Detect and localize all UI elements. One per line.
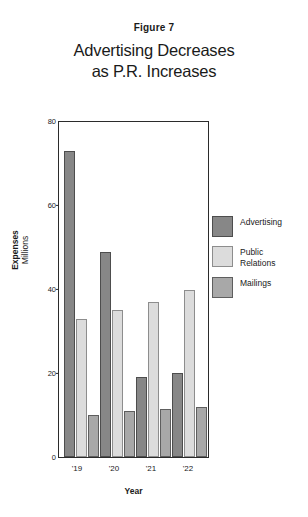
bar-advertising-20 <box>100 252 111 457</box>
chart-title-line-2: as P.R. Increases <box>0 61 308 82</box>
chart-title-line-1: Advertising Decreases <box>74 41 235 59</box>
bar-public-relations-19 <box>76 319 87 457</box>
chart-legend: AdvertisingPublicRelationsMailings <box>212 216 306 307</box>
legend-label-line-1: Advertising <box>240 217 282 228</box>
bar-mailings-20 <box>124 411 135 457</box>
bar-mailings-21 <box>160 409 171 457</box>
bar-public-relations-22 <box>184 290 195 458</box>
x-tick-19: '19 <box>57 464 97 473</box>
bar-public-relations-20 <box>112 310 123 457</box>
figure-number: Figure 7 <box>0 22 308 33</box>
y-tick-80: 80 <box>0 117 56 126</box>
x-tick-21: '21 <box>131 464 171 473</box>
bar-group-21 <box>136 122 172 457</box>
legend-swatch-public <box>212 246 233 267</box>
y-axis-label: Expenses Millions <box>10 205 30 295</box>
legend-swatch-mailings <box>212 277 233 298</box>
y-tick-80-text: 80 <box>48 117 56 126</box>
y-tick-60-text: 60 <box>48 201 56 210</box>
legend-label-line-1: Mailings <box>240 278 271 289</box>
x-axis-label: Year <box>58 486 209 496</box>
x-tick-22: '22 <box>168 464 208 473</box>
y-tick-0: 0 <box>0 453 56 462</box>
y-tick-40-text: 40 <box>48 285 56 294</box>
legend-item-advertising[interactable]: Advertising <box>212 216 306 237</box>
bar-group-19 <box>64 122 100 457</box>
legend-label-advertising: Advertising <box>240 216 282 228</box>
chart-title: Advertising Decreases as P.R. Increases <box>0 40 308 82</box>
legend-label-line-2: Relations <box>240 258 275 269</box>
legend-label-line-1: Public <box>240 247 275 258</box>
bar-mailings-19 <box>88 415 99 457</box>
legend-item-public[interactable]: PublicRelations <box>212 246 306 268</box>
bar-advertising-21 <box>136 377 147 457</box>
bars-layer <box>59 122 208 457</box>
bar-advertising-22 <box>172 373 183 457</box>
y-tick-0-text: 0 <box>52 453 56 462</box>
bar-group-22 <box>172 122 208 457</box>
legend-label-public: PublicRelations <box>240 246 275 268</box>
plot-area <box>58 121 209 458</box>
y-axis-label-line-1: Expenses <box>10 205 20 295</box>
bar-group-20 <box>100 122 136 457</box>
bar-advertising-19 <box>64 151 75 457</box>
bar-mailings-22 <box>196 407 207 457</box>
y-tick-20: 20 <box>0 369 56 378</box>
legend-label-mailings: Mailings <box>240 277 271 289</box>
bar-public-relations-21 <box>148 302 159 457</box>
y-tick-60: 60 <box>0 201 56 210</box>
legend-item-mailings[interactable]: Mailings <box>212 277 306 298</box>
y-axis-label-line-2: Millions <box>20 205 30 295</box>
legend-swatch-advertising <box>212 216 233 237</box>
y-tick-40: 40 <box>0 285 56 294</box>
y-tick-20-text: 20 <box>48 369 56 378</box>
figure-container: Figure 7 Advertising Decreases as P.R. I… <box>0 0 308 517</box>
x-tick-20: '20 <box>94 464 134 473</box>
